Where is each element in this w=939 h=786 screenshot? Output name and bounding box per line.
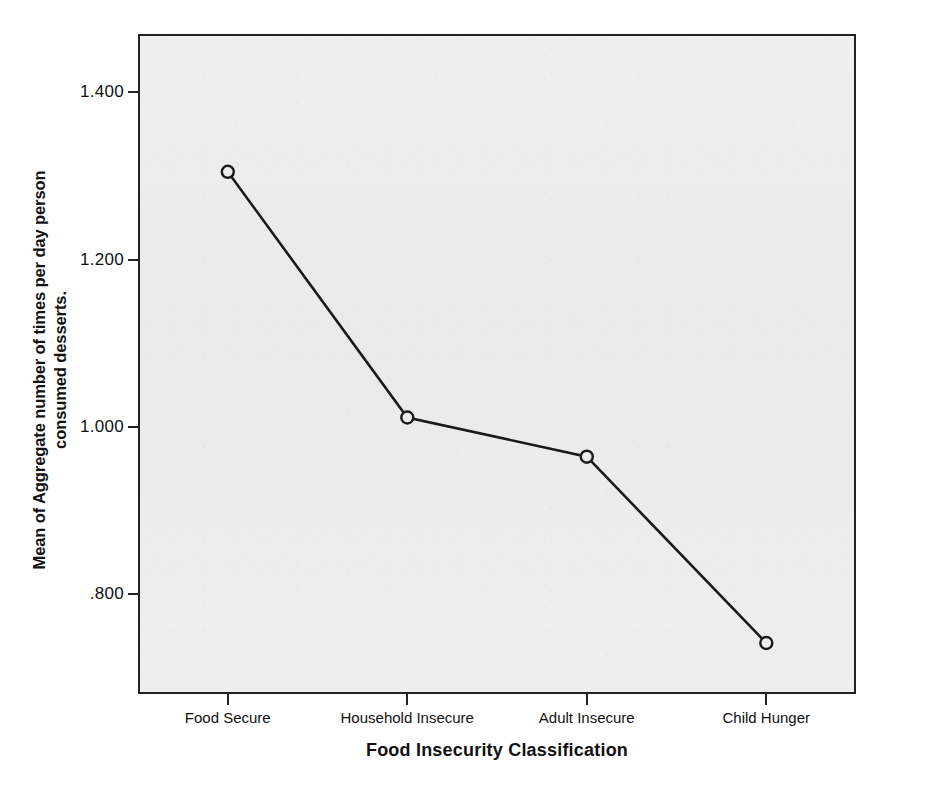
figure-page: Mean of Aggregate number of times per da… — [0, 0, 939, 786]
series-line — [228, 172, 767, 643]
data-point-marker — [222, 166, 234, 178]
series-markers — [222, 166, 773, 649]
data-point-marker — [581, 451, 593, 463]
line-series-layer — [0, 0, 939, 786]
x-axis-title: Food Insecurity Classification — [138, 740, 856, 761]
data-point-marker — [760, 637, 772, 649]
data-point-marker — [401, 412, 413, 424]
